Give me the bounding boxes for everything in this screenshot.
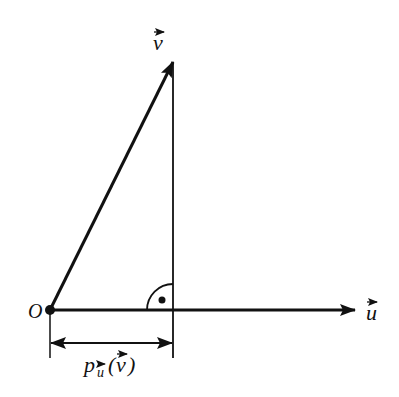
svg-text:): ) [126,352,135,377]
projection-diagram: O v u p u ( v ) [0,0,399,397]
svg-text:p: p [82,352,95,377]
svg-text:u: u [97,365,104,380]
vector-v-label: v [153,30,164,55]
right-angle-dot [159,297,166,304]
svg-text:v: v [153,30,163,55]
vector-u-label: u [366,300,377,325]
origin-point [45,305,55,315]
right-angle-arc [147,284,173,310]
vector-v-line [50,62,173,310]
svg-text:u: u [366,300,377,325]
projection-label: p u ( v ) [82,352,135,380]
svg-text:v: v [116,352,126,377]
origin-label: O [28,300,42,322]
